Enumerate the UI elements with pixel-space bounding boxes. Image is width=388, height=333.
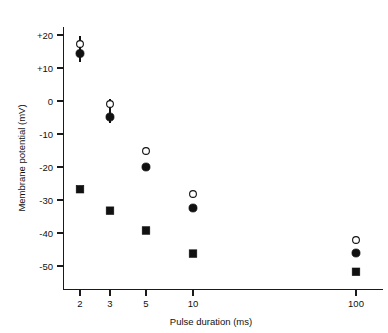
x-tick-label: 100 (348, 298, 364, 309)
x-axis-tick-labels: 2 3 5 10 100 (77, 298, 364, 309)
data-point-filled-square (352, 268, 360, 276)
y-axis-ticks (57, 35, 64, 266)
data-point-open-circle (190, 191, 197, 198)
series-open-circle (77, 36, 360, 243)
data-point-open-circle (107, 101, 114, 108)
y-tick-label: -20 (39, 162, 53, 173)
y-tick-label: -50 (39, 261, 53, 272)
x-tick-label: 3 (107, 298, 112, 309)
x-axis-ticks (80, 290, 356, 297)
x-tick-label: 5 (143, 298, 148, 309)
y-tick-label: +10 (37, 63, 53, 74)
data-point-open-circle (143, 148, 150, 155)
data-point-filled-circle (106, 113, 114, 121)
data-point-filled-circle (352, 249, 360, 257)
data-point-filled-circle (142, 163, 150, 171)
data-point-filled-circle (76, 49, 84, 57)
data-point-filled-square (106, 207, 114, 215)
y-axis-tick-labels: +20 +10 0 -10 -20 -30 -40 -50 (37, 30, 53, 272)
data-point-filled-square (76, 185, 84, 193)
series-filled-circle (76, 47, 360, 257)
y-tick-label: -30 (39, 195, 53, 206)
x-tick-label: 2 (77, 298, 82, 309)
chart-figure: +20 +10 0 -10 -20 -30 -40 -50 2 3 5 10 1… (0, 0, 388, 333)
scatter-plot: +20 +10 0 -10 -20 -30 -40 -50 2 3 5 10 1… (0, 0, 388, 333)
data-point-filled-circle (189, 204, 197, 212)
y-tick-label: -10 (39, 129, 53, 140)
data-point-open-circle (77, 41, 84, 48)
x-tick-label: 10 (188, 298, 199, 309)
data-point-filled-square (189, 250, 197, 258)
plot-axes (64, 27, 384, 290)
data-point-open-circle (353, 237, 360, 244)
series-filled-square (76, 185, 360, 275)
x-axis-title: Pulse duration (ms) (170, 316, 252, 327)
y-tick-label: +20 (37, 30, 53, 41)
y-axis-title: Membrane potential (mV) (16, 104, 27, 211)
data-point-filled-square (142, 227, 150, 235)
y-tick-label: -40 (39, 228, 53, 239)
y-tick-label: 0 (48, 96, 53, 107)
